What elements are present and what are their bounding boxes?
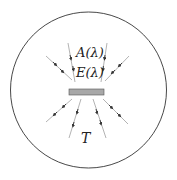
emissivity-label: E(λ): [76, 66, 104, 79]
enclosure-diagram: [0, 0, 177, 180]
temperature-label: T: [81, 131, 90, 145]
absorptivity-label: A(λ): [76, 46, 104, 59]
outgoing-arrowheads: [54, 104, 120, 126]
plate: [69, 89, 104, 95]
